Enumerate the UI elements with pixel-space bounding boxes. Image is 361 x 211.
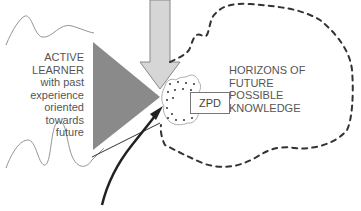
learner-line-1: ACTIVE <box>20 51 84 64</box>
horizons-line-3: POSSIBLE <box>229 89 305 102</box>
down-arrow <box>140 0 180 89</box>
horizons-line-1: HORIZONS OF <box>229 64 305 77</box>
horizons-line-4: KNOWLEDGE <box>229 102 305 115</box>
zpd-box: ZPD <box>190 92 230 114</box>
horizons-line-2: FUTURE <box>229 77 305 90</box>
learner-line-2: LEARNER <box>20 64 84 77</box>
learner-line-3: with past <box>20 76 84 89</box>
learner-line-5: oriented <box>20 101 84 114</box>
learner-line-6: towards <box>20 114 84 127</box>
horizons-label: HORIZONS OF FUTURE POSSIBLE KNOWLEDGE <box>229 64 305 114</box>
learner-line-7: future <box>20 126 84 139</box>
upper-wavy-line <box>6 16 94 45</box>
active-learner-label: ACTIVE LEARNER with past experience orie… <box>20 51 84 139</box>
learner-line-4: experience <box>20 89 84 102</box>
